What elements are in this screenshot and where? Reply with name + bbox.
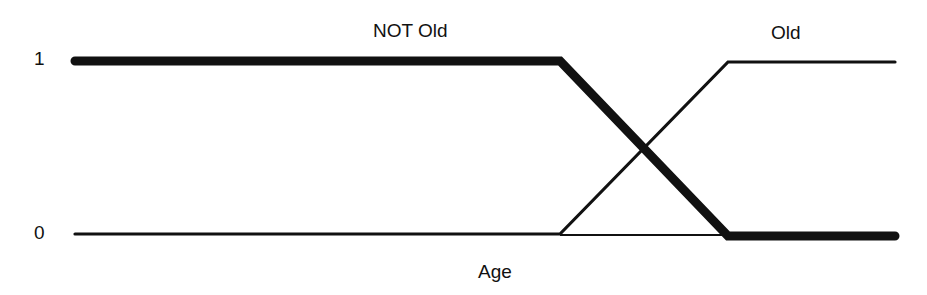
membership-diagram bbox=[0, 0, 927, 295]
old-label: Old bbox=[771, 22, 801, 44]
x-axis-label: Age bbox=[478, 261, 512, 283]
old-curve bbox=[75, 62, 895, 234]
not-old-curve bbox=[75, 61, 895, 236]
not-old-label: NOT Old bbox=[373, 20, 448, 42]
y-tick-0: 0 bbox=[34, 222, 45, 244]
y-tick-1: 1 bbox=[34, 48, 45, 70]
